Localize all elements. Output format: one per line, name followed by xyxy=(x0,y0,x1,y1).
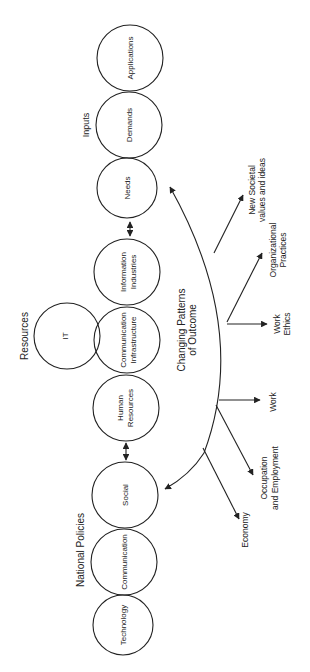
group-label-resources: Resources xyxy=(19,312,30,360)
node-communication-infrastructure-label-1: Communication xyxy=(119,312,128,368)
node-communication-infrastructure: Communication Infrastructure xyxy=(94,307,160,373)
outcome-work: Work xyxy=(268,391,278,411)
outcome-occupation-line-2: and Employment xyxy=(270,445,280,509)
node-communication-label: Communication xyxy=(120,534,129,590)
outcome-new-societal-line-1: New Societal xyxy=(247,165,257,215)
node-it: IT xyxy=(34,303,100,369)
branch-new-societal xyxy=(214,195,243,253)
branch-economy xyxy=(203,448,239,519)
outcome-new-societal-line-2: values and ideas xyxy=(257,158,267,222)
outcome-occupation-line-1: Occupation xyxy=(259,456,269,499)
outcome-economy: Economy xyxy=(240,512,250,548)
center-label-line-1: Changing Patterns xyxy=(176,289,187,372)
node-technology: Technology xyxy=(93,595,153,655)
group-label-inputs: Inputs xyxy=(81,112,91,137)
node-needs: Needs xyxy=(97,158,157,218)
node-human-resources: Human Resources xyxy=(93,375,159,441)
node-social: Social xyxy=(92,462,158,528)
node-communication: Communication xyxy=(91,529,157,595)
outcome-arc-lower xyxy=(165,453,204,489)
node-communication-infrastructure-label-2: Infrastructure xyxy=(129,316,138,364)
outcome-organizational-line-1: Organizational xyxy=(268,222,278,277)
node-human-resources-label-2: Resources xyxy=(126,389,135,427)
group-label-national-policies: National Policies xyxy=(75,513,86,587)
branch-organizational xyxy=(227,253,262,322)
node-demands-label: Demands xyxy=(125,108,134,142)
outcome-work-ethics-line-2: Ethics xyxy=(282,312,292,335)
node-demands: Demands xyxy=(96,92,162,158)
node-applications: Applications xyxy=(97,25,163,91)
node-information-industries: Information Industries xyxy=(94,239,160,305)
outcome-organizational-line-2: Practices xyxy=(278,233,288,268)
node-social-label: Social xyxy=(121,484,130,506)
branch-occupation xyxy=(216,405,253,475)
outcome-work-ethics-line-1: Work xyxy=(272,313,282,333)
node-applications-label: Applications xyxy=(126,36,135,79)
node-it-label: IT xyxy=(61,332,70,339)
node-technology-label: Technology xyxy=(119,605,128,645)
node-information-industries-label-1: Information xyxy=(119,252,128,292)
information-society-diagram: Inputs Resources National Policies Appli… xyxy=(0,0,310,672)
node-information-industries-label-2: Industries xyxy=(129,255,138,290)
node-human-resources-label-1: Human xyxy=(116,395,125,421)
center-label-line-2: of Outcome xyxy=(187,304,198,356)
node-needs-label: Needs xyxy=(123,176,132,199)
